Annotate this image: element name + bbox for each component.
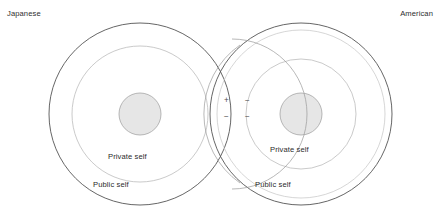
right-circle-group (210, 23, 392, 205)
venn-diagram-svg (0, 0, 441, 216)
zone-label-public-self-right: Public self (255, 180, 291, 189)
overlap-sign-top-right: − (245, 97, 250, 105)
culture-label-american: American (400, 9, 433, 18)
left-private-self-core-circle (119, 93, 161, 135)
overlap-sign-bottom-left: − (224, 113, 229, 121)
overlap-sign-bottom-right: − (245, 113, 250, 121)
zone-label-private-self-left: Private self (108, 152, 147, 161)
zone-label-private-self-right: Private self (270, 145, 309, 154)
culture-label-japanese: Japanese (7, 9, 41, 18)
overlap-sign-top-left: + (224, 97, 229, 105)
overlap-right-arc (204, 45, 240, 183)
zone-label-public-self-left: Public self (93, 180, 129, 189)
figure-container: Japanese American Private self Public se… (0, 0, 441, 216)
right-private-self-core-circle (280, 93, 322, 135)
